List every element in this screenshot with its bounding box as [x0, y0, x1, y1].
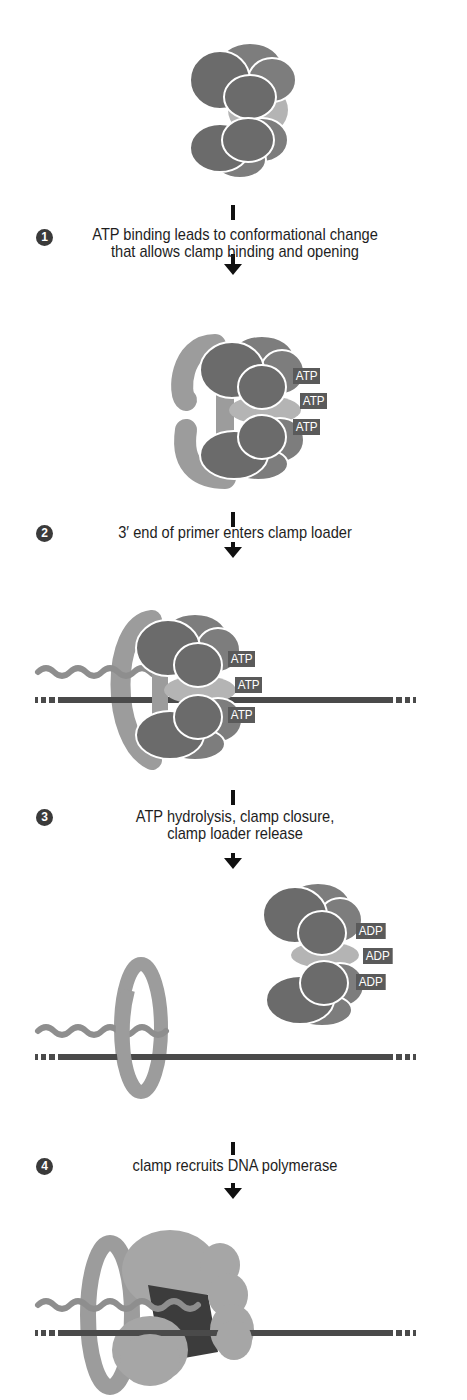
diagram-artwork [0, 0, 467, 1400]
adp-tag-d-3: ADP [356, 974, 385, 990]
step-3-line-2: clamp loader release [72, 824, 399, 843]
atp-tag-c-2: ATP [235, 677, 262, 693]
atp-tag-b-1: ATP [293, 368, 320, 384]
panel-b-loader-with-open-clamp [182, 336, 304, 480]
panel-c-primer-entry [35, 614, 416, 760]
atp-tag-b-2: ATP [300, 393, 327, 409]
step-badge-4: 4 [36, 1158, 53, 1175]
step-badge-3: 3 [36, 809, 53, 826]
atp-tag-b-3: ATP [293, 419, 320, 435]
atp-tag-c-3: ATP [228, 707, 255, 723]
panel-e-polymerase-bound [35, 1230, 416, 1387]
adp-tag-d-1: ADP [356, 923, 385, 939]
step-badge-1: 1 [36, 229, 53, 246]
panel-a-clamp-loader [190, 43, 296, 178]
step-1-line-2: that allows clamp binding and opening [72, 242, 399, 261]
atp-tag-c-1: ATP [228, 651, 255, 667]
clamp-loading-diagram: 1 ATP binding leads to conformational ch… [0, 0, 467, 1400]
step-2-line-1: 3′ end of primer enters clamp loader [72, 523, 399, 542]
adp-tag-d-2: ADP [363, 948, 392, 964]
step-badge-2: 2 [36, 525, 53, 542]
step-4-line-1: clamp recruits DNA polymerase [72, 1156, 399, 1175]
